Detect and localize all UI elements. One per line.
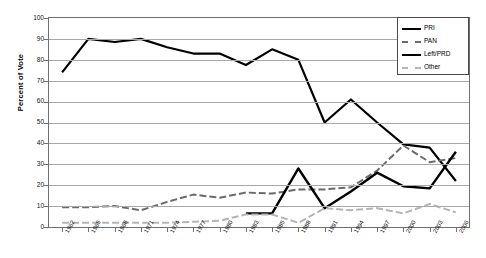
gridline	[49, 206, 469, 207]
gridline	[49, 143, 469, 144]
y-axis-tick-label: 70	[16, 78, 44, 85]
series-line-pan	[62, 145, 456, 210]
y-axis-tick-label: 0	[16, 224, 44, 231]
gridline	[49, 164, 469, 165]
y-axis-tick-label: 40	[16, 140, 44, 147]
legend-label: Other	[424, 64, 440, 71]
series-line-left-prd	[246, 152, 456, 214]
x-axis-tick-mark	[167, 228, 168, 232]
gridline	[49, 102, 469, 103]
x-axis-tick-mark	[246, 228, 247, 232]
legend-label: Left/PRD	[424, 51, 450, 58]
legend-swatch	[402, 67, 421, 69]
legend-swatch	[402, 41, 421, 43]
y-axis-tick-label: 60	[16, 98, 44, 105]
legend-item-pri: PRI	[402, 22, 465, 35]
y-axis-tick-label: 30	[16, 161, 44, 168]
y-axis-tick-label: 100	[16, 15, 44, 22]
x-axis-tick-mark	[220, 228, 221, 232]
legend-label: PAN	[424, 38, 437, 45]
y-axis-tick-label: 90	[16, 36, 44, 43]
x-axis-tick-mark	[377, 228, 378, 232]
gridline	[49, 185, 469, 186]
legend-item-other: Other	[402, 61, 465, 74]
legend-swatch	[402, 28, 421, 30]
y-axis-tick-label: 20	[16, 182, 44, 189]
chart-container: Percent of Vote 0102030405060708090100 1…	[0, 0, 486, 258]
x-axis-tick-mark	[456, 228, 457, 232]
x-axis-tick-mark	[115, 228, 116, 232]
legend-item-pan: PAN	[402, 35, 465, 48]
x-axis-tick-mark	[272, 228, 273, 232]
x-axis-tick-mark	[325, 228, 326, 232]
legend-swatch	[402, 54, 421, 56]
gridline	[49, 123, 469, 124]
y-axis-tick-label: 80	[16, 57, 44, 64]
legend: PRIPANLeft/PRDOther	[397, 17, 469, 75]
x-axis-tick-mark	[351, 228, 352, 232]
gridline	[49, 81, 469, 82]
x-axis-tick-mark	[430, 228, 431, 232]
y-axis-tick-label: 50	[16, 119, 44, 126]
x-axis-tick-mark	[62, 228, 63, 232]
y-axis-tick-label: 10	[16, 203, 44, 210]
legend-label: PRI	[424, 25, 435, 32]
legend-item-left-prd: Left/PRD	[402, 48, 465, 61]
x-axis-tick-mark	[141, 228, 142, 232]
